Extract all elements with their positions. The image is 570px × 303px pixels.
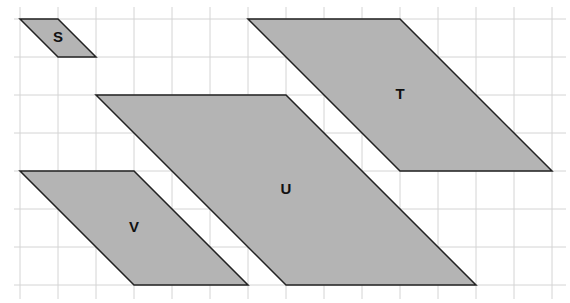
- label-t: T: [395, 85, 404, 102]
- parallelogram-s: S: [20, 19, 96, 57]
- diagram-canvas: S T U V: [0, 0, 570, 303]
- label-v: V: [129, 218, 139, 235]
- label-u: U: [281, 180, 292, 197]
- label-s: S: [53, 28, 63, 45]
